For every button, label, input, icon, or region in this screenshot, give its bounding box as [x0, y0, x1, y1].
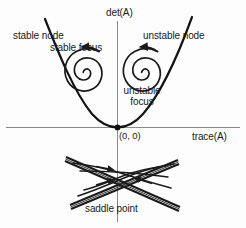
trace-determinant-diagram: stable node stable focus unstable node u…: [0, 0, 246, 228]
label-saddle-point: saddle point: [85, 203, 138, 214]
label-unstable-focus-line2: focus: [118, 96, 166, 107]
label-det-axis: det(A): [106, 7, 133, 18]
label-origin: (0, 0): [119, 130, 141, 141]
axes-group: [6, 21, 240, 222]
label-trace-axis: trace(A): [192, 131, 227, 142]
label-unstable-node: unstable node: [143, 30, 205, 41]
stable-focus-spiral: [65, 47, 102, 91]
stable-focus-path: [65, 49, 102, 91]
label-unstable-focus-line1: unstable: [118, 85, 166, 96]
label-stable-focus: stable focus: [50, 42, 102, 53]
label-stable-node: stable node: [13, 30, 64, 41]
